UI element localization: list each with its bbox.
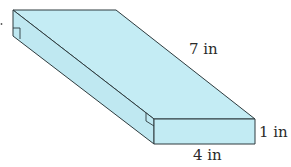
prism-front-face xyxy=(154,119,255,144)
length-label: 7 in xyxy=(189,40,218,58)
width-label: 4 in xyxy=(193,146,222,164)
stray-dot xyxy=(1,23,3,25)
rectangular-prism-diagram: 7 in 1 in 4 in xyxy=(0,0,291,167)
prism-top-face xyxy=(13,10,255,119)
height-label: 1 in xyxy=(259,123,288,141)
